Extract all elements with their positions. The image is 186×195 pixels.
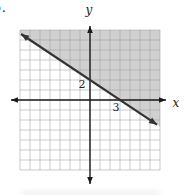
inequality-graph: y x 2 3 [0, 0, 186, 195]
worksheet-page: 5. y x 2 3 [0, 0, 186, 195]
y-axis-label: y [85, 3, 93, 17]
y-intercept-label: 2 [79, 78, 86, 91]
x-intercept-label: 3 [113, 101, 120, 114]
x-axis-label: x [173, 96, 180, 110]
scan-artifact [22, 191, 160, 195]
